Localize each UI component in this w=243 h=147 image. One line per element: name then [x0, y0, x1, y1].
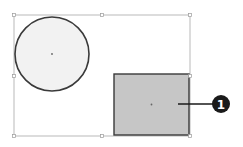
rectangle-center-point [151, 104, 153, 106]
circle-center-point [51, 53, 53, 55]
handle-top-middle[interactable] [101, 14, 104, 17]
handle-top-left[interactable] [13, 14, 16, 17]
callout-badge-label: 1 [217, 98, 225, 112]
handle-bottom-middle[interactable] [101, 135, 104, 138]
handle-middle-left[interactable] [13, 75, 16, 78]
diagram-canvas: 1 [0, 0, 243, 147]
handle-bottom-right[interactable] [189, 135, 192, 138]
handle-middle-right[interactable] [189, 75, 192, 78]
handle-bottom-left[interactable] [13, 135, 16, 138]
handle-top-right[interactable] [189, 14, 192, 17]
